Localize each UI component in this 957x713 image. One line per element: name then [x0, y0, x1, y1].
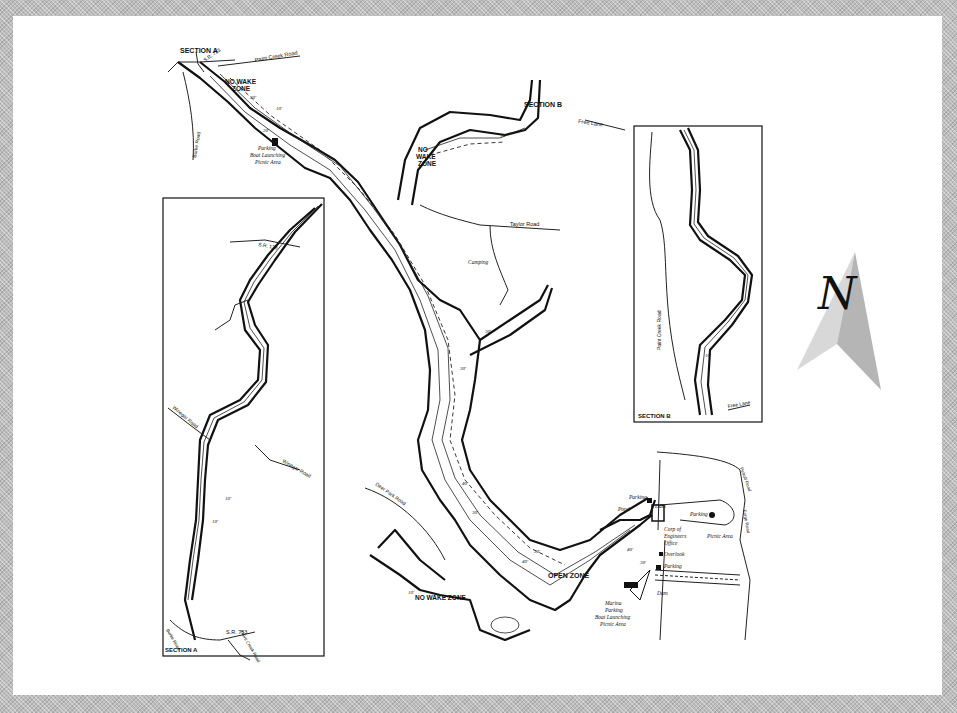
parking-launch-label-2: Boat Launching: [250, 152, 286, 158]
marina-label-2: Parking: [604, 607, 623, 613]
depth-label: 40': [522, 559, 529, 564]
depth-label: 10': [225, 496, 232, 501]
parking-dam-label: Parking: [628, 494, 647, 500]
roads: [168, 52, 750, 640]
parking-picnic-label: Parking: [689, 511, 708, 517]
road-winegar-1: Winegar Road: [171, 404, 200, 429]
road-paint-creek-top: Paint Creek Road: [254, 50, 298, 63]
camping-label: Camping: [468, 259, 488, 265]
dam-lower-label: Dam: [656, 590, 668, 596]
no-wake-zone-label-2: NO: [418, 146, 428, 153]
section-a-inset: [163, 198, 324, 660]
facility-markers: [272, 138, 715, 588]
parking-lower-label: Parking: [663, 563, 682, 569]
corps-label-1: Corp of: [664, 526, 682, 532]
parking-marker: [656, 565, 661, 570]
depth-label: 40': [462, 481, 469, 486]
road-paint-creek-b: Paint Creek Road: [656, 310, 662, 350]
road-winegar-2: Winegar Road: [282, 458, 313, 479]
no-wake-zone-label-2b: WAKE: [416, 153, 436, 160]
marina-label-3: Boat Launching: [595, 614, 631, 620]
section-b-label-inset: SECTION B: [638, 413, 671, 419]
depth-label: 30': [250, 95, 257, 100]
road-paint-creek-bottom: Paint Creek Road: [239, 630, 261, 664]
road-petroff: Petroff Road: [739, 467, 752, 493]
depth-label: 30': [485, 329, 492, 334]
overlook-marker: [659, 552, 663, 556]
parking-launch-label-3: Picnic Area: [254, 159, 281, 165]
open-zone-label: OPEN ZONE: [548, 572, 590, 579]
depth-label: 10': [705, 353, 712, 358]
marina-label-4: Picnic Area: [599, 621, 626, 627]
no-wake-zone-label-2c: ZONE: [418, 160, 437, 167]
road-forge: Forge Road: [742, 509, 751, 534]
section-b-label-top: SECTION B: [524, 101, 562, 108]
no-wake-zone-label-1: NO WAKE: [225, 78, 257, 85]
depth-label: 10': [500, 133, 507, 138]
marina-marker: [624, 582, 638, 588]
parking-marker: [272, 138, 278, 146]
pond-label: Pond: [617, 506, 630, 512]
parking-marker: [709, 512, 715, 518]
north-letter: N: [818, 268, 857, 319]
road-free-lane-top: Free Lane: [578, 118, 604, 127]
road-taylor: Taylor Road: [510, 221, 539, 227]
no-wake-zone-label-3: NO WAKE ZONE: [415, 594, 467, 601]
depth-label: 30': [534, 549, 541, 554]
map-labels: SECTION A SECTION B SECTION A SECTION B …: [165, 47, 753, 664]
no-wake-zone-label-1b: ZONE: [232, 85, 251, 92]
section-b-inset: [634, 126, 762, 422]
depth-label: 30': [472, 510, 479, 515]
depth-label: 30': [460, 366, 467, 371]
parking-marker: [647, 498, 652, 503]
depth-label: 10': [212, 519, 219, 524]
dam-top-label: Dam: [654, 503, 666, 509]
depth-label: 30': [640, 560, 647, 565]
overlook-label: Overlook: [664, 551, 685, 557]
marina-label-1: Marina: [604, 600, 622, 606]
depth-label: 40': [627, 547, 634, 552]
picnic-area-label: Picnic Area: [706, 533, 733, 539]
depth-label: 20': [263, 128, 270, 133]
corps-label-3: Office: [664, 540, 678, 546]
depth-label: 10': [408, 590, 415, 595]
corps-label-2: Engineers: [663, 533, 686, 539]
depth-label: 10': [276, 106, 283, 111]
